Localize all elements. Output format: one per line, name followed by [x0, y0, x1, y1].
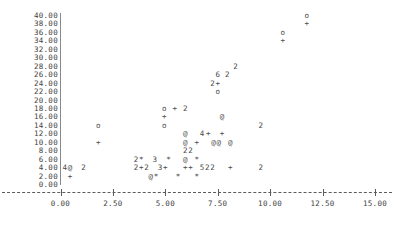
data-point-marker: @ — [148, 173, 153, 181]
data-point-marker: 2 — [233, 63, 238, 71]
data-point-marker: + — [183, 164, 188, 172]
data-point-marker: 2 — [134, 156, 139, 164]
data-point-marker: + — [215, 80, 220, 88]
data-point-marker: * — [139, 156, 144, 164]
data-point-marker: + — [305, 20, 310, 28]
data-point-marker: + — [173, 105, 178, 113]
data-point-marker: 3 — [158, 164, 163, 172]
data-point-marker: 2 — [183, 147, 188, 155]
y-axis-tick-label: 34.00 — [6, 37, 58, 45]
data-point-marker: + — [206, 130, 211, 138]
data-point-marker: + — [96, 139, 101, 147]
data-point-marker: o — [162, 122, 167, 130]
data-point-marker: o — [162, 105, 167, 113]
y-axis-tick-label: 16.00 — [6, 113, 58, 121]
y-axis-tick-label: 26.00 — [6, 71, 58, 79]
data-point-marker: 2 — [210, 164, 215, 172]
x-axis-tick-label: 10.00 — [245, 199, 295, 208]
data-point-marker: 2 — [205, 164, 210, 172]
y-axis-tick-label: 10.00 — [6, 139, 58, 147]
data-point-marker: + — [163, 164, 168, 172]
y-axis-tick-label: 8.00 — [6, 147, 58, 155]
data-point-marker: + — [188, 164, 193, 172]
y-axis-tick-label: 20.00 — [6, 97, 58, 105]
y-axis-tick-label: 12.00 — [6, 130, 58, 138]
data-point-marker: 2 — [134, 164, 139, 172]
data-point-marker: 2 — [144, 164, 149, 172]
y-axis-line — [60, 13, 61, 185]
data-point-marker: 2 — [183, 105, 188, 113]
y-axis-tick-label: 32.00 — [6, 46, 58, 54]
data-point-marker: 3 — [153, 156, 158, 164]
y-axis-tick-label: 22.00 — [6, 88, 58, 96]
x-axis-tick-label: 15.00 — [350, 199, 394, 208]
x-axis-tick-label: 7.50 — [193, 199, 243, 208]
data-point-marker: 2 — [210, 80, 215, 88]
y-axis-tick-label: 2.00 — [6, 173, 58, 181]
x-axis-tick-label: 5.00 — [140, 199, 190, 208]
data-point-marker: 6 — [215, 71, 220, 79]
data-point-marker: * — [176, 173, 181, 181]
y-axis-tick-label: 4.00 — [6, 164, 58, 172]
y-axis-tick-label: 36.00 — [6, 29, 58, 37]
data-point-marker: + — [280, 37, 285, 45]
x-axis-tick-label: 12.50 — [298, 199, 348, 208]
x-axis-tick-mark — [61, 189, 62, 196]
data-point-marker: 2 — [258, 164, 263, 172]
data-point-marker: @ — [183, 130, 188, 138]
data-point-marker: 4 — [62, 164, 67, 172]
data-point-marker: o — [305, 12, 310, 20]
data-point-marker: + — [162, 113, 167, 121]
x-axis-tick-label: 0.00 — [36, 199, 86, 208]
data-point-marker: + — [220, 130, 225, 138]
x-axis-tick-mark — [165, 189, 166, 196]
data-point-marker: @ — [183, 139, 188, 147]
data-point-marker: 2 — [188, 147, 193, 155]
data-point-marker: + — [139, 164, 144, 172]
y-axis-tick-label: 0.00 — [6, 181, 58, 189]
data-point-marker: @ — [217, 139, 222, 147]
data-point-marker: 4 — [200, 130, 205, 138]
y-axis-tick-label: 40.00 — [6, 12, 58, 20]
data-point-marker: 2 — [258, 122, 263, 130]
data-point-marker: @ — [228, 139, 233, 147]
x-axis-tick-mark — [323, 189, 324, 196]
data-point-marker: @ — [220, 113, 225, 121]
data-point-marker: 5 — [200, 164, 205, 172]
data-point-marker: + — [68, 173, 73, 181]
data-point-marker: @ — [183, 156, 188, 164]
data-point-marker: * — [154, 173, 159, 181]
data-point-marker: @ — [68, 164, 73, 172]
y-axis-tick-label: 6.00 — [6, 156, 58, 164]
y-axis-tick-label: 28.00 — [6, 63, 58, 71]
x-axis-tick-label: 2.50 — [88, 199, 138, 208]
x-axis-tick-mark — [270, 189, 271, 196]
x-axis-tick-mark — [375, 189, 376, 196]
data-point-marker: @ — [211, 139, 216, 147]
y-axis-tick-label: 38.00 — [6, 20, 58, 28]
data-point-marker: * — [195, 173, 200, 181]
data-point-marker: o — [280, 29, 285, 37]
y-axis-tick-label: 30.00 — [6, 54, 58, 62]
y-axis-tick-label: 24.00 — [6, 80, 58, 88]
y-axis-tick-label: 18.00 — [6, 105, 58, 113]
data-point-marker: 2 — [81, 164, 86, 172]
data-point-marker: * — [195, 156, 200, 164]
x-axis-tick-mark — [218, 189, 219, 196]
data-point-marker: o — [215, 88, 220, 96]
data-point-marker: + — [195, 139, 200, 147]
data-point-marker: o — [96, 122, 101, 130]
data-point-marker: * — [166, 156, 171, 164]
scatter-chart: 0.002.004.006.008.0010.0012.0014.0016.00… — [0, 0, 394, 226]
y-axis-tick-label: 14.00 — [6, 122, 58, 130]
data-point-marker: + — [228, 164, 233, 172]
data-point-marker: 2 — [225, 71, 230, 79]
x-axis-tick-mark — [113, 189, 114, 196]
